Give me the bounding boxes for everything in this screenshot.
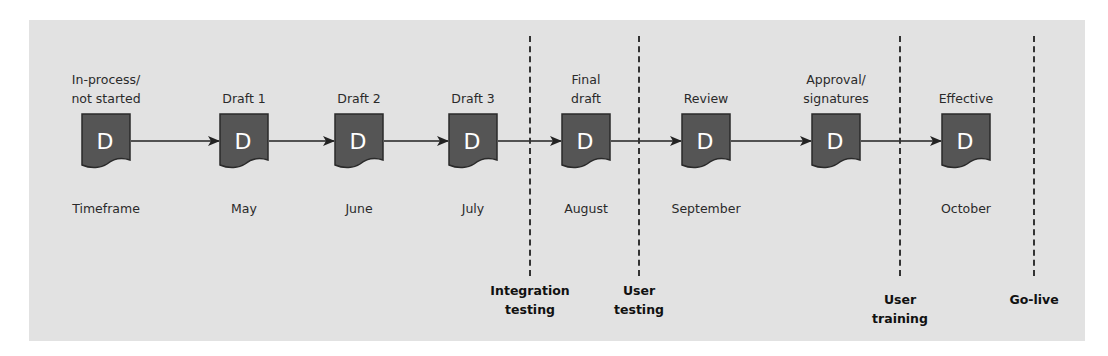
document-icon: D: [81, 113, 131, 169]
timeframe-label: August: [564, 199, 608, 218]
stage-label: Draft 3: [451, 89, 494, 108]
milestone-label: Go-live: [1009, 290, 1058, 309]
milestone-divider: [638, 36, 640, 276]
svg-text:D: D: [350, 129, 367, 154]
svg-text:D: D: [827, 129, 844, 154]
stage-label: Review: [684, 89, 729, 108]
document-icon: D: [219, 113, 269, 169]
svg-text:D: D: [697, 129, 714, 154]
timeframe-label: October: [941, 199, 991, 218]
document-icon: D: [681, 113, 731, 169]
svg-text:D: D: [577, 129, 594, 154]
document-icon: D: [561, 113, 611, 169]
document-icon: D: [334, 113, 384, 169]
stage-label: Effective: [939, 89, 994, 108]
milestone-divider: [1033, 36, 1035, 276]
timeframe-label: September: [671, 199, 740, 218]
milestone-label: Usertraining: [872, 290, 928, 328]
milestone-label: Integrationtesting: [490, 281, 569, 319]
milestone-divider: [899, 36, 901, 276]
document-icon: D: [941, 113, 991, 169]
document-icon: D: [448, 113, 498, 169]
timeframe-label: June: [345, 199, 372, 218]
stage-label: Finaldraft: [571, 70, 601, 108]
timeframe-label: May: [231, 199, 257, 218]
timeframe-label: Timeframe: [72, 199, 140, 218]
milestone-label: Usertesting: [614, 281, 664, 319]
svg-text:D: D: [464, 129, 481, 154]
svg-text:D: D: [97, 129, 114, 154]
milestone-divider: [529, 36, 531, 276]
stage-label: In-process/not started: [71, 70, 140, 108]
stage-label: Approval/signatures: [803, 70, 868, 108]
svg-text:D: D: [957, 129, 974, 154]
document-icon: D: [811, 113, 861, 169]
stage-label: Draft 2: [337, 89, 380, 108]
timeframe-label: July: [462, 199, 484, 218]
svg-text:D: D: [235, 129, 252, 154]
stage-label: Draft 1: [222, 89, 265, 108]
